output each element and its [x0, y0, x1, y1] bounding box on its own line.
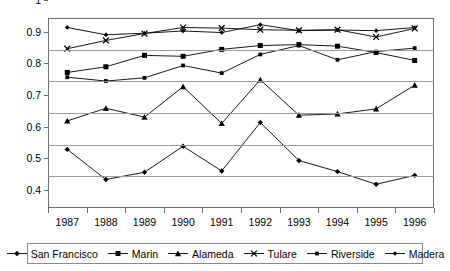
- x-axis-tick-mark: [125, 208, 126, 213]
- diamond-marker-icon: [6, 248, 28, 259]
- data-point: [374, 28, 379, 33]
- data-point: [335, 169, 340, 174]
- gridline: [48, 50, 434, 51]
- legend-label: Madera: [409, 248, 445, 260]
- x-axis-tick-label: 1995: [364, 216, 387, 228]
- series-line: [67, 123, 414, 185]
- gridline: [48, 81, 434, 82]
- small-square-marker-icon: [306, 248, 328, 259]
- plot-area: [48, 18, 434, 208]
- x-axis-tick-mark: [395, 208, 396, 213]
- x-axis-tick-label: 1988: [94, 216, 117, 228]
- data-point: [335, 44, 340, 49]
- x-marker-icon: [243, 248, 265, 259]
- x-axis-tick-label: 1991: [210, 216, 233, 228]
- data-point: [142, 170, 147, 175]
- legend-item-alameda[interactable]: Alameda: [167, 248, 233, 260]
- line-chart: 0.40.50.60.70.80.91 19871988198919901991…: [0, 0, 450, 271]
- y-axis-tick-label: 0.4: [26, 184, 41, 196]
- x-axis-tick-label: 1990: [171, 216, 194, 228]
- x-axis-tick-mark: [87, 208, 88, 213]
- data-point: [258, 43, 263, 48]
- legend-label: Alameda: [192, 248, 233, 260]
- data-point: [104, 32, 109, 37]
- legend-label: Marin: [132, 248, 158, 260]
- triangle-marker-icon: [167, 248, 189, 259]
- data-point: [103, 105, 109, 111]
- x-axis-tick-mark: [318, 208, 319, 213]
- data-point: [412, 58, 417, 63]
- data-point: [258, 53, 262, 57]
- data-point: [143, 76, 147, 80]
- data-point: [65, 75, 69, 79]
- legend-item-tulare[interactable]: Tulare: [243, 248, 297, 260]
- data-point: [64, 118, 70, 124]
- data-point: [373, 182, 378, 187]
- small-diamond-marker-icon: [384, 248, 406, 259]
- series-line: [67, 80, 414, 124]
- x-axis-tick-label: 1993: [287, 216, 310, 228]
- data-point: [336, 58, 340, 62]
- data-point: [373, 106, 379, 112]
- gridline: [48, 113, 434, 114]
- x-axis: 1987198819891990199119921993199419951996: [48, 208, 434, 236]
- x-axis-tick-label: 1994: [326, 216, 349, 228]
- legend-item-riverside[interactable]: Riverside: [306, 248, 375, 260]
- x-axis-tick-label: 1987: [56, 216, 79, 228]
- y-axis-tick-label: 0.8: [26, 57, 41, 69]
- x-axis-tick-mark: [280, 208, 281, 213]
- data-point: [297, 44, 301, 48]
- x-axis-tick-mark: [48, 208, 49, 213]
- chart-legend: San FranciscoMarinAlamedaTulareRiverside…: [27, 243, 423, 264]
- data-point: [181, 54, 186, 59]
- gridline: [48, 145, 434, 146]
- x-axis-tick-label: 1996: [403, 216, 426, 228]
- x-axis-tick-label: 1989: [133, 216, 156, 228]
- legend-label: San Francisco: [31, 248, 98, 260]
- y-axis-tick-label: 0.6: [26, 121, 41, 133]
- series-line: [67, 25, 414, 35]
- x-axis-tick-label: 1992: [249, 216, 272, 228]
- legend-item-marin[interactable]: Marin: [107, 248, 158, 260]
- data-point: [103, 64, 108, 69]
- x-axis-tick-mark: [241, 208, 242, 213]
- series-marin: [65, 42, 417, 75]
- series-alameda: [64, 77, 418, 126]
- data-point: [180, 84, 186, 90]
- y-axis-tick-mark: [44, 0, 48, 1]
- y-axis-tick-label: 0.7: [26, 89, 41, 101]
- legend-item-madera[interactable]: Madera: [384, 248, 445, 260]
- data-point: [142, 53, 147, 58]
- y-axis: 0.40.50.60.70.80.91: [0, 0, 48, 190]
- square-marker-icon: [107, 248, 129, 259]
- data-point: [65, 70, 70, 75]
- data-point: [412, 82, 418, 88]
- gridline: [48, 176, 434, 177]
- legend-label: Tulare: [268, 248, 297, 260]
- data-point: [219, 30, 224, 35]
- series-line: [67, 46, 414, 81]
- data-point: [181, 64, 185, 68]
- data-point: [258, 22, 263, 27]
- data-point: [220, 71, 224, 75]
- legend-label: Riverside: [331, 248, 375, 260]
- y-axis-tick-label: 0.9: [26, 26, 41, 38]
- x-axis-tick-mark: [434, 208, 435, 213]
- x-axis-tick-mark: [202, 208, 203, 213]
- legend-item-san-francisco[interactable]: San Francisco: [6, 248, 98, 260]
- y-axis-tick-label: 0.5: [26, 152, 41, 164]
- y-axis-tick-label: 1: [35, 0, 41, 6]
- data-point: [65, 25, 70, 30]
- x-axis-tick-mark: [164, 208, 165, 213]
- x-axis-tick-mark: [357, 208, 358, 213]
